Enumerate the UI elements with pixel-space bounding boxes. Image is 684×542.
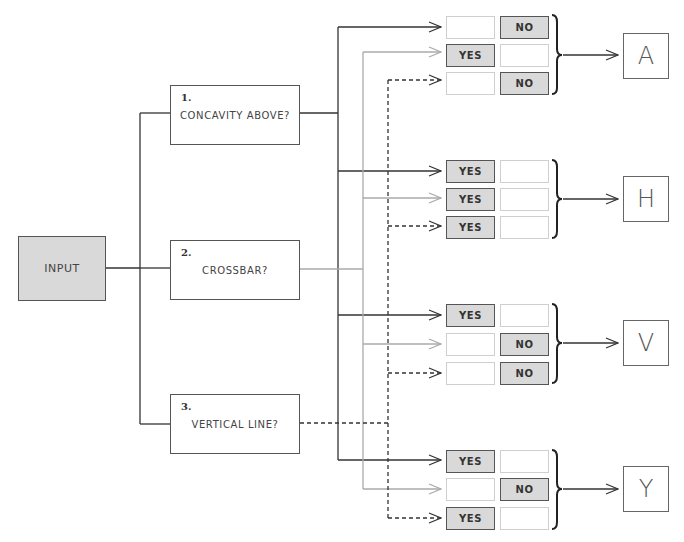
result-letter-a: A bbox=[623, 33, 669, 79]
question-text: VERTICAL LINE? bbox=[171, 419, 299, 430]
result-letter-v: V bbox=[623, 320, 669, 366]
no-cell bbox=[500, 216, 549, 239]
no-cell: NO bbox=[500, 478, 549, 501]
yes-cell bbox=[446, 16, 495, 39]
yes-cell: YES bbox=[446, 44, 495, 67]
question-box-2: 2. CROSSBAR? bbox=[170, 240, 300, 300]
yes-cell: YES bbox=[446, 507, 495, 530]
no-cell bbox=[500, 304, 549, 327]
question-number: 3. bbox=[181, 401, 191, 412]
no-cell: NO bbox=[500, 16, 549, 39]
yes-cell: YES bbox=[446, 304, 495, 327]
yes-cell: YES bbox=[446, 160, 495, 183]
no-cell bbox=[500, 188, 549, 211]
yes-cell bbox=[446, 478, 495, 501]
question-box-1: 1. CONCAVITY ABOVE? bbox=[170, 85, 300, 145]
question-number: 2. bbox=[181, 247, 191, 258]
no-cell bbox=[500, 507, 549, 530]
no-cell: NO bbox=[500, 333, 549, 356]
result-arrows bbox=[563, 55, 618, 489]
yes-cell: YES bbox=[446, 450, 495, 473]
question-1-branch bbox=[300, 27, 441, 460]
question-text: CONCAVITY ABOVE? bbox=[171, 110, 299, 121]
yes-cell: YES bbox=[446, 188, 495, 211]
no-cell bbox=[500, 450, 549, 473]
no-cell: NO bbox=[500, 362, 549, 385]
result-letter-y: Y bbox=[623, 466, 669, 512]
no-cell bbox=[500, 160, 549, 183]
no-cell bbox=[500, 44, 549, 67]
question-box-3: 3. VERTICAL LINE? bbox=[170, 394, 300, 454]
yes-cell bbox=[446, 362, 495, 385]
no-cell: NO bbox=[500, 72, 549, 95]
question-number: 1. bbox=[181, 92, 191, 103]
question-3-branch bbox=[300, 80, 441, 518]
yes-cell bbox=[446, 72, 495, 95]
input-trunk bbox=[106, 113, 170, 424]
question-text: CROSSBAR? bbox=[171, 265, 299, 276]
result-letter-h: H bbox=[623, 176, 669, 222]
group-braces bbox=[552, 15, 562, 529]
input-label: INPUT bbox=[44, 262, 79, 275]
yes-cell bbox=[446, 333, 495, 356]
yes-cell: YES bbox=[446, 216, 495, 239]
input-box: INPUT bbox=[18, 236, 106, 301]
